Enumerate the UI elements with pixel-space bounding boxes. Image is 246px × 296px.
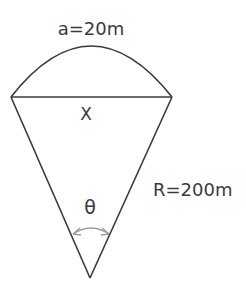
sector-diagram: a=20m X θ R=200m (0, 0, 246, 296)
arc-length-label: a=20m (58, 18, 125, 39)
angle-label: θ (84, 196, 96, 218)
left-radius-line (11, 97, 90, 278)
chord-label: X (80, 104, 92, 124)
sector-arc (11, 46, 172, 97)
radius-label: R=200m (153, 179, 232, 200)
